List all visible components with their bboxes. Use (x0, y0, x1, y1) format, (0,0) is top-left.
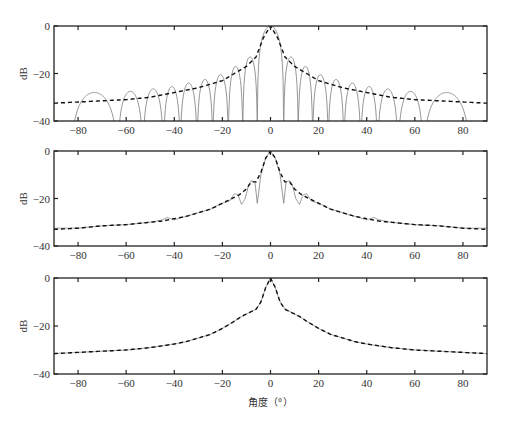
x-axis-label: 角度（°） (248, 396, 293, 408)
y-axis-label: dB (17, 320, 29, 333)
y-tick-label: −20 (33, 68, 51, 80)
x-tick-label: 0 (268, 249, 274, 261)
x-tick-label: 60 (409, 377, 421, 389)
axes-frame (54, 26, 487, 121)
panel-bottom: −80−60−40−200204060800−20−40dB (17, 272, 487, 389)
x-tick-label: 20 (313, 249, 325, 261)
x-tick-label: −20 (214, 124, 232, 136)
dashed-line-series (54, 151, 487, 229)
figure: −80−60−40−200204060800−20−40dB −80−60−40… (0, 0, 507, 426)
x-tick-label: −40 (166, 249, 184, 261)
x-tick-label: 40 (361, 124, 373, 136)
x-tick-label: 20 (313, 377, 325, 389)
y-tick-label: −40 (33, 368, 51, 380)
x-tick-label: −40 (166, 377, 184, 389)
y-tick-label: −40 (33, 115, 51, 127)
x-tick-label: 0 (268, 377, 274, 389)
dashed-line-series (54, 26, 487, 103)
y-axis-label: dB (17, 67, 29, 80)
x-tick-label: 80 (457, 124, 469, 136)
solid-line-series (54, 151, 487, 228)
y-tick-label: 0 (45, 145, 51, 157)
x-tick-label: 60 (409, 249, 421, 261)
y-tick-label: −20 (33, 320, 51, 332)
y-tick-label: 0 (45, 20, 51, 32)
x-tick-label: 0 (268, 124, 274, 136)
axes-frame (54, 278, 487, 374)
x-tick-label: −60 (118, 124, 136, 136)
solid-line-series (54, 26, 487, 126)
y-tick-label: −20 (33, 193, 51, 205)
x-tick-label: −80 (69, 377, 87, 389)
x-tick-label: −60 (118, 377, 136, 389)
panel-middle: −80−60−40−200204060800−20−40dB (17, 145, 487, 261)
x-tick-label: −80 (69, 124, 87, 136)
x-tick-label: −40 (166, 124, 184, 136)
x-tick-label: 40 (361, 249, 373, 261)
x-tick-label: 60 (409, 124, 421, 136)
x-tick-label: −20 (214, 249, 232, 261)
x-tick-label: −20 (214, 377, 232, 389)
x-tick-label: 80 (457, 377, 469, 389)
x-tick-label: 40 (361, 377, 373, 389)
x-tick-label: 20 (313, 124, 325, 136)
y-tick-label: −40 (33, 240, 51, 252)
solid-line-series (54, 278, 487, 354)
panel-top: −80−60−40−200204060800−20−40dB (17, 20, 487, 136)
x-tick-label: −80 (69, 249, 87, 261)
x-tick-label: −60 (118, 249, 136, 261)
x-tick-label: 80 (457, 249, 469, 261)
y-axis-label: dB (17, 192, 29, 205)
y-tick-label: 0 (45, 272, 51, 284)
dashed-line-series (54, 278, 487, 354)
axes-frame (54, 151, 487, 246)
